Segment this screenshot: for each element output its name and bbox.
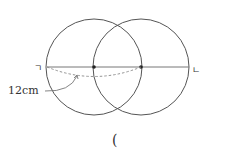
answer-paren: ( [112, 132, 117, 148]
point-label-left: ㄱ [34, 63, 42, 73]
measure-label: 12cm [8, 84, 39, 97]
left-center-point [92, 65, 96, 69]
point-label-right: ㄴ [192, 65, 200, 75]
two-circles-diagram: ㄱ ㄴ 12cm ( [0, 0, 250, 154]
pointer-arrow-line [45, 76, 77, 91]
